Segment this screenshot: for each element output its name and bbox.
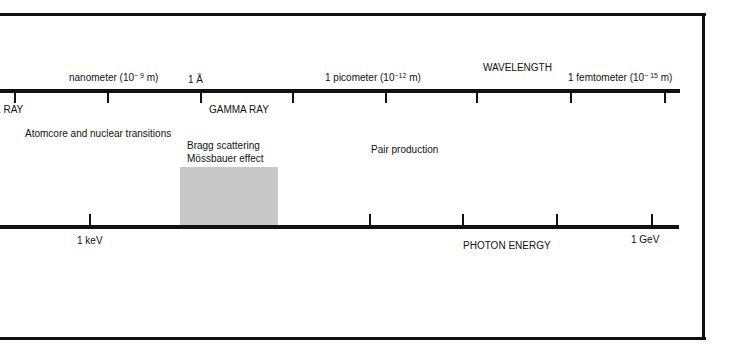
gamma-ray-region-label: GAMMA RAY xyxy=(209,104,269,116)
wavelength-axis-title: WAVELENGTH xyxy=(483,62,552,74)
bragg-mossbauer-band xyxy=(180,167,278,226)
wavelength-axis-line xyxy=(0,89,680,93)
atomcore-transitions-label: Atomcore and nuclear transitions xyxy=(25,128,171,140)
nanometer-unit: m) xyxy=(144,72,158,83)
axis-tick xyxy=(292,92,294,103)
axis-tick xyxy=(570,92,572,103)
frame-top-border xyxy=(0,13,706,16)
picometer-unit: m) xyxy=(406,72,420,83)
femtometer-unit: m) xyxy=(658,72,672,83)
frame-right-border xyxy=(702,13,705,340)
nanometer-label: nanometer (10− 9 m) xyxy=(69,72,158,84)
photon-energy-axis-title: PHOTON ENERGY xyxy=(463,240,551,252)
femtometer-label-text: 1 femtometer (10 xyxy=(568,72,644,83)
frame-bottom-border xyxy=(0,337,706,340)
picometer-label: 1 picometer (10−12 m) xyxy=(325,72,421,84)
kev-label: 1 keV xyxy=(77,235,103,247)
femtometer-exponent: − 15 xyxy=(644,72,658,79)
picometer-exponent: −12 xyxy=(394,72,406,79)
axis-tick xyxy=(200,92,202,103)
pair-production-label: Pair production xyxy=(371,144,438,156)
mossbauer-effect-label: Mössbauer effect xyxy=(187,153,264,165)
axis-tick xyxy=(14,92,16,103)
x-ray-region-label: X RAY xyxy=(0,104,23,116)
axis-tick xyxy=(107,92,109,103)
axis-tick xyxy=(385,92,387,103)
axis-tick xyxy=(476,92,478,103)
axis-tick xyxy=(664,92,666,103)
photon-energy-axis-line xyxy=(0,225,679,229)
nanometer-exponent: − 9 xyxy=(134,72,144,79)
bragg-scattering-label: Bragg scattering xyxy=(187,140,260,152)
gev-label: 1 GeV xyxy=(631,234,659,246)
picometer-label-text: 1 picometer (10 xyxy=(325,72,394,83)
nanometer-label-text: nanometer (10 xyxy=(69,72,134,83)
femtometer-label: 1 femtometer (10− 15 m) xyxy=(568,72,672,84)
angstrom-label: 1 Å xyxy=(188,74,203,86)
